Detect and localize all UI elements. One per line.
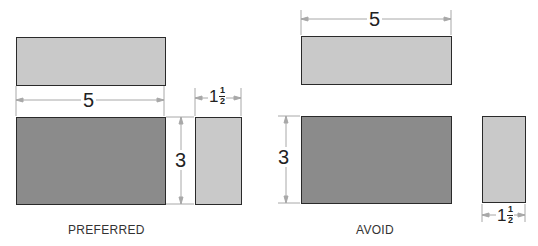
preferred-width-dimension: 5	[81, 90, 96, 110]
avoid-width-dimension: 5	[367, 9, 382, 29]
depth-denominator: 2	[220, 97, 225, 106]
preferred-height-dimension: 3	[173, 150, 188, 170]
avoid-side-view	[482, 116, 526, 203]
avoid-top-view	[301, 36, 452, 85]
preferred-top-view	[16, 37, 166, 86]
avoid-height-dimension: 3	[276, 147, 291, 167]
preferred-depth-dimension: 1 1 2	[208, 86, 226, 106]
avoid-front-view	[301, 116, 452, 204]
preferred-front-view	[16, 117, 166, 205]
depth-fraction: 1 2	[219, 86, 225, 106]
depth-numerator: 1	[508, 205, 513, 214]
depth-whole: 1	[497, 207, 506, 224]
preferred-caption: PREFERRED	[68, 223, 145, 237]
depth-numerator: 1	[220, 86, 225, 95]
preferred-side-view	[195, 117, 242, 205]
depth-fraction: 1 2	[507, 205, 513, 225]
avoid-caption: AVOID	[356, 223, 394, 237]
avoid-depth-dimension: 1 1 2	[496, 205, 514, 225]
depth-denominator: 2	[508, 216, 513, 225]
depth-whole: 1	[209, 88, 218, 105]
